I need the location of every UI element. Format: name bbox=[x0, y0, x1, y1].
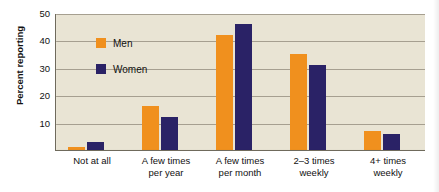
bar-women-1 bbox=[161, 117, 178, 150]
bar-women-4 bbox=[383, 134, 400, 150]
bar-women-2 bbox=[235, 24, 252, 150]
legend-item-men: Men bbox=[96, 34, 147, 52]
gridline-50 bbox=[56, 14, 425, 15]
bar-women-3 bbox=[309, 65, 326, 150]
legend-item-women: Women bbox=[96, 60, 147, 78]
bar-men-1 bbox=[142, 106, 159, 150]
y-tick-50: 50 bbox=[25, 8, 50, 19]
chart-legend: Men Women bbox=[96, 34, 147, 86]
legend-label-women: Women bbox=[113, 64, 147, 75]
bar-chart-figure: Percent reporting 1020304050 Men Women N… bbox=[0, 0, 439, 192]
y-tick-30: 30 bbox=[25, 63, 50, 74]
legend-label-men: Men bbox=[113, 38, 132, 49]
y-tick-10: 10 bbox=[25, 118, 50, 129]
bar-men-3 bbox=[290, 54, 307, 150]
bar-men-2 bbox=[216, 35, 233, 150]
y-tick-20: 20 bbox=[25, 90, 50, 101]
legend-swatch-women bbox=[96, 64, 106, 74]
y-axis-title: Percent reporting bbox=[14, 1, 25, 131]
bar-men-4 bbox=[364, 131, 381, 150]
y-tick-40: 40 bbox=[25, 35, 50, 46]
plot-area: Men Women bbox=[55, 14, 425, 151]
x-tick-4: 4+ times weekly bbox=[343, 155, 433, 179]
bar-men-0 bbox=[68, 147, 85, 150]
bar-women-0 bbox=[87, 142, 104, 150]
page-edge-shadow bbox=[433, 0, 439, 192]
legend-swatch-men bbox=[96, 38, 106, 48]
